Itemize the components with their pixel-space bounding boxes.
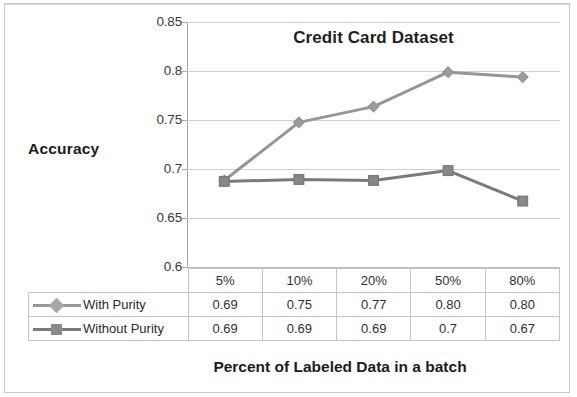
data-point-marker <box>518 72 528 82</box>
y-tick-label-075: 0.75 <box>136 112 182 127</box>
data-point-marker <box>220 177 230 187</box>
y-tick-label-08: 0.8 <box>136 63 182 78</box>
table-cell-without-purity-4: 0.67 <box>485 317 559 341</box>
table-cell-with-purity-4: 0.80 <box>485 293 559 317</box>
y-axis-title: Accuracy <box>28 140 99 158</box>
y-tick-label-07: 0.7 <box>136 161 182 176</box>
table-col-header-0: 5% <box>188 269 262 293</box>
table-corner-cell <box>29 269 189 293</box>
legend-key-without-purity <box>33 322 81 336</box>
table-cell-with-purity-2: 0.77 <box>337 293 411 317</box>
data-point-marker <box>368 101 378 111</box>
table-row: With Purity 0.69 0.75 0.77 0.80 0.80 <box>29 293 560 317</box>
legend-cell-without-purity: Without Purity <box>29 317 189 341</box>
data-point-marker <box>518 196 528 206</box>
y-tick-label-085: 0.85 <box>136 14 182 29</box>
plot-area <box>187 22 560 268</box>
legend-key-with-purity <box>33 298 81 312</box>
table-cell-with-purity-3: 0.80 <box>411 293 485 317</box>
table-header-row: 5% 10% 20% 50% 80% <box>29 269 560 293</box>
square-marker-icon <box>51 324 62 335</box>
legend-cell-with-purity: With Purity <box>29 293 189 317</box>
legend-label-with-purity: With Purity <box>83 297 146 312</box>
table-cell-without-purity-3: 0.7 <box>411 317 485 341</box>
table-cell-without-purity-1: 0.69 <box>262 317 336 341</box>
table-col-header-1: 10% <box>262 269 336 293</box>
data-point-marker <box>443 166 453 176</box>
data-point-marker <box>443 67 453 77</box>
table-cell-without-purity-0: 0.69 <box>188 317 262 341</box>
data-point-marker <box>294 175 304 185</box>
series-line-with-purity <box>224 72 522 180</box>
data-point-marker <box>369 176 379 186</box>
table-cell-with-purity-0: 0.69 <box>188 293 262 317</box>
table-cell-without-purity-2: 0.69 <box>337 317 411 341</box>
table-cell-with-purity-1: 0.75 <box>262 293 336 317</box>
data-table: 5% 10% 20% 50% 80% With Purity <box>28 268 560 341</box>
y-tick-label-065: 0.65 <box>136 210 182 225</box>
series-layer <box>187 22 560 268</box>
x-axis-title: Percent of Labeled Data in a batch <box>150 358 530 376</box>
table-col-header-4: 80% <box>485 269 559 293</box>
figure-frame-top-edge <box>4 3 570 5</box>
legend-label-without-purity: Without Purity <box>83 321 164 336</box>
diamond-marker-icon <box>49 297 65 313</box>
table-col-header-2: 20% <box>337 269 411 293</box>
chart-screenshot: Accuracy Credit Card Dataset 0.85 0.8 0.… <box>0 0 577 397</box>
table-col-header-3: 50% <box>411 269 485 293</box>
table-row: Without Purity 0.69 0.69 0.69 0.7 0.67 <box>29 317 560 341</box>
